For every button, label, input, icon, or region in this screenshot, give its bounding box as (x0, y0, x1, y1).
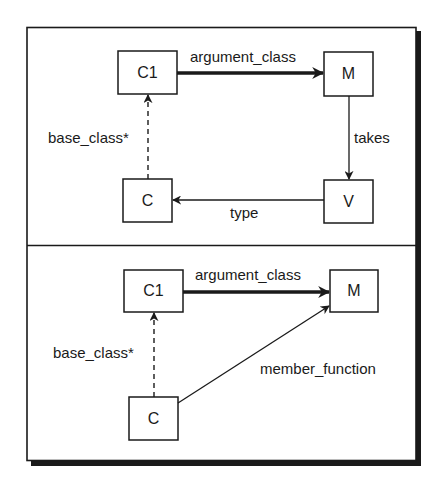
bottom-edge-argument-class-label: argument_class (195, 267, 301, 282)
top-node-c-label: C (123, 179, 172, 222)
bottom-edge-member-function-label: member_function (260, 361, 376, 376)
top-node-c1-label: C1 (118, 51, 177, 94)
top-edge-type-label: type (230, 205, 258, 220)
bottom-edge-base-class-label: base_class* (53, 345, 134, 360)
top-edge-base-class-label: base_class* (48, 130, 129, 145)
top-node-m-label: M (324, 52, 373, 96)
bottom-node-c1-label: C1 (124, 270, 183, 312)
bottom-node-c-label: C (129, 397, 178, 440)
bottom-node-m-label: M (330, 270, 378, 312)
top-node-v-label: V (324, 180, 373, 223)
top-edge-takes-label: takes (354, 130, 390, 145)
diagram-canvas (0, 0, 443, 489)
top-edge-argument-class-label: argument_class (190, 49, 296, 64)
